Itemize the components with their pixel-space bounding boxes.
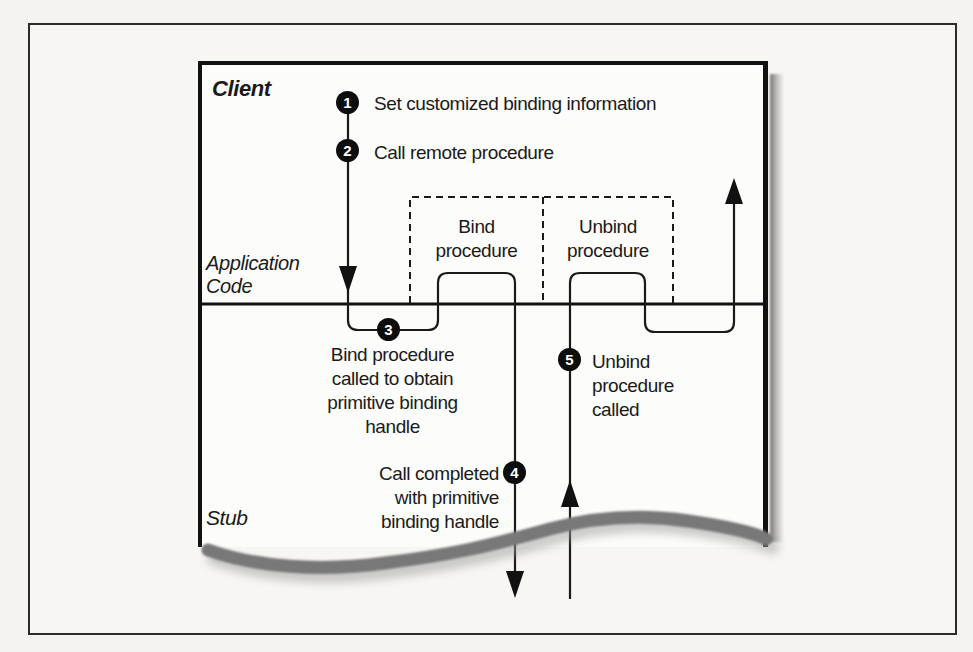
step-4-badge-icon: 4 xyxy=(503,461,526,484)
unbind-procedure-box-label: Unbind procedure xyxy=(543,215,673,263)
step-3-badge-icon: 3 xyxy=(377,318,400,341)
bind-procedure-box-label: Bind procedure xyxy=(410,215,543,263)
application-code-region-label: Application Code xyxy=(206,252,299,298)
client-region-label: Client xyxy=(212,77,271,101)
step-4-label: Call completed with primitive binding ha… xyxy=(325,462,499,534)
step-3-label: Bind procedure called to obtain primitiv… xyxy=(310,343,475,439)
figure-canvas: Client Application Code Stub Bind proced… xyxy=(0,0,973,652)
step-5-badge-icon: 5 xyxy=(558,348,581,371)
step-1-label: Set customized binding information xyxy=(374,92,656,116)
step-2-badge-icon: 2 xyxy=(336,139,359,162)
client-box-shadow xyxy=(770,74,784,542)
stub-region-label: Stub xyxy=(206,506,248,530)
step-1-badge-icon: 1 xyxy=(336,91,359,114)
step-2-label: Call remote procedure xyxy=(374,141,554,165)
step-5-label: Unbind procedure called xyxy=(592,350,674,422)
